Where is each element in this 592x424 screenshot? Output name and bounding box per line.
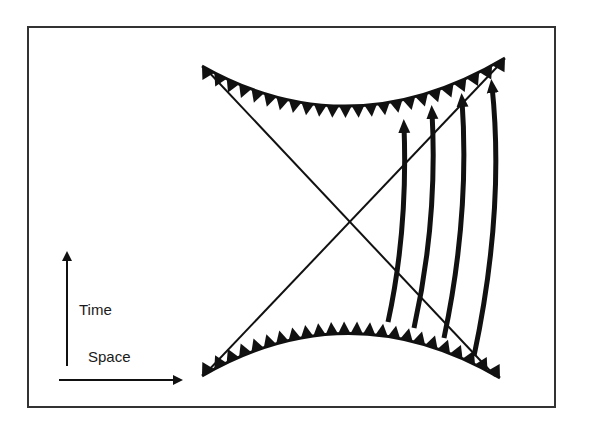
spacetime-diagram: Time Space [0, 0, 592, 424]
worldline-3 [444, 100, 464, 338]
horizon-line-2 [205, 66, 498, 374]
singularity-tooth [375, 324, 387, 337]
space-label: Space [88, 348, 131, 365]
worldline-4 [474, 86, 496, 356]
worldline-1 [388, 126, 405, 322]
singularity-tooth [377, 102, 390, 115]
singularity-tooth [301, 102, 314, 115]
time-label: Time [79, 301, 112, 318]
worldlines [388, 86, 496, 356]
singularity-tooth [301, 325, 313, 338]
singularity-tooth [351, 322, 363, 334]
singularity-tooth [364, 104, 377, 117]
singularity-tooth [339, 106, 352, 118]
future-singularity [202, 58, 505, 118]
singularity-tooth [338, 322, 350, 334]
singularity-tooth [388, 326, 400, 339]
singularity-tooth [326, 322, 338, 334]
singularity-tooth [363, 322, 375, 335]
singularity-tooth [313, 323, 325, 336]
singularity-tooth [352, 105, 365, 117]
singularity-tooth [327, 105, 340, 117]
singularity-tooth [314, 104, 327, 117]
